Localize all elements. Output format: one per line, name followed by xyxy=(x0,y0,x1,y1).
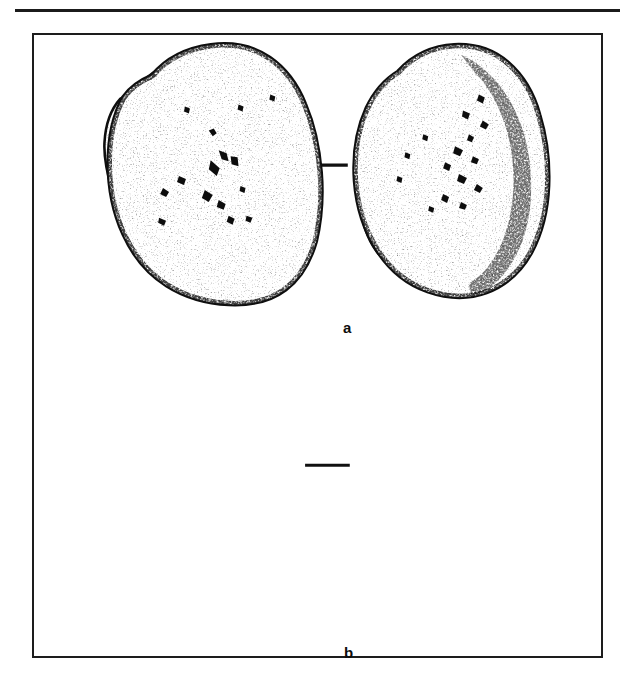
panel-label-a: a xyxy=(343,320,351,335)
cobble-hammerstone-drawing-right xyxy=(342,35,570,323)
header-rule xyxy=(15,9,620,12)
figure-artwork xyxy=(34,35,601,656)
panel-label-b: b xyxy=(344,645,353,660)
figure-page: a b xyxy=(0,0,633,688)
cobble-hammerstone-drawing-left xyxy=(94,35,342,323)
figure-frame: a b xyxy=(32,33,603,658)
